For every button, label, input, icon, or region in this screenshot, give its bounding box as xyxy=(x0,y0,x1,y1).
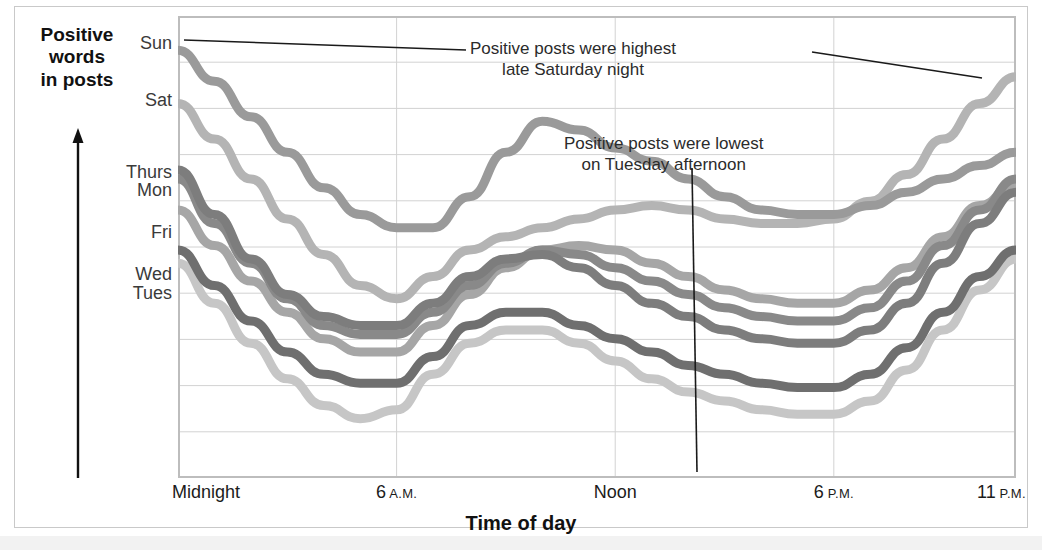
annotation-highest-line-2: late Saturday night xyxy=(470,59,676,80)
x-tick-1: 6 A.M. xyxy=(376,482,417,503)
x-tick-label-2: Noon xyxy=(594,482,637,502)
x-tick-label-4: 11 xyxy=(977,482,996,502)
x-tick-meridiem-1: A.M. xyxy=(386,486,417,501)
x-tick-3: 6 P.M. xyxy=(814,482,854,503)
series-label-tues: Tues xyxy=(133,283,172,304)
x-tick-label-0: Midnight xyxy=(172,482,240,502)
annotation-lowest-line-1: Positive posts were lowest xyxy=(564,133,763,154)
series-label-column: SunSatThursMonFriWedTues xyxy=(104,0,172,500)
x-tick-label-1: 6 xyxy=(376,482,386,502)
y-axis-arrow-icon xyxy=(71,128,85,478)
annotation-lowest-line-2: on Tuesday afternoon xyxy=(564,154,763,175)
x-tick-4: 11 P.M. xyxy=(977,482,1026,503)
annotation-highest-line-1: Positive posts were highest xyxy=(470,38,676,59)
x-axis-tick-labels: Midnight6 A.M.Noon6 P.M.11 P.M. xyxy=(0,482,1042,508)
annotation-lowest: Positive posts were lowest on Tuesday af… xyxy=(564,133,763,176)
chart-figure: Positive words in posts SunSatThursMonFr… xyxy=(0,0,1042,550)
series-label-mon: Mon xyxy=(137,180,172,201)
annotation-highest: Positive posts were highest late Saturda… xyxy=(470,38,676,81)
x-tick-label-3: 6 xyxy=(814,482,824,502)
x-tick-2: Noon xyxy=(594,482,637,503)
series-label-sat: Sat xyxy=(145,90,172,111)
x-axis-title: Time of day xyxy=(0,512,1042,535)
series-label-fri: Fri xyxy=(151,222,172,243)
x-tick-meridiem-3: P.M. xyxy=(824,486,854,501)
series-label-sun: Sun xyxy=(140,33,172,54)
plot-area xyxy=(178,16,1016,478)
x-tick-meridiem-4: P.M. xyxy=(996,486,1026,501)
page-bottom-strip xyxy=(0,536,1042,550)
series-label-wed: Wed xyxy=(135,264,172,285)
x-tick-0: Midnight xyxy=(172,482,240,503)
line-chart-svg xyxy=(178,16,1016,478)
